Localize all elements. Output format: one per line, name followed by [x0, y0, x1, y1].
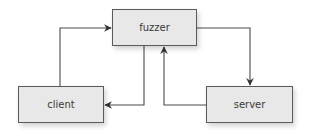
server-label: server — [234, 99, 266, 110]
server-node: server — [206, 86, 293, 123]
edge-fuzzer-to-server — [197, 28, 250, 85]
edge-fuzzer-to-client — [105, 46, 144, 105]
fuzzer-label: fuzzer — [139, 22, 170, 33]
client-node: client — [18, 86, 104, 123]
edge-client-to-fuzzer — [60, 28, 111, 86]
edge-server-to-fuzzer — [164, 47, 206, 105]
diagram-canvas: fuzzer client server — [0, 0, 311, 136]
client-label: client — [47, 99, 74, 110]
fuzzer-node: fuzzer — [112, 9, 197, 46]
